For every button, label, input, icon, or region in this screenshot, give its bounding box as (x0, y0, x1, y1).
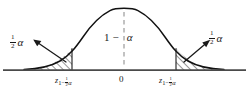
confidence-alpha-symbol: α (127, 31, 133, 43)
confidence-level-label: 1−α (104, 32, 133, 43)
left-z-subscript-alpha: α (68, 79, 71, 86)
left-critical-value-label: z1− 1 2 α (55, 77, 72, 87)
confidence-one: 1 (104, 31, 110, 43)
confidence-minus-sign: − (113, 31, 119, 43)
left-tail-arrow (33, 40, 66, 62)
right-tail-arrow (184, 40, 210, 62)
left-tail-probability-label: 1 2 α (10, 33, 23, 50)
distribution-plot-svg (0, 0, 249, 95)
right-tail-fraction: 1 2 (209, 30, 215, 46)
left-tail-fraction: 1 2 (10, 34, 16, 50)
right-tail-probability-label: 1 2 α (209, 29, 222, 46)
right-z-subscript-alpha: α (172, 79, 175, 86)
origin-tick-label: 0 (119, 75, 124, 84)
right-critical-value-label: z1− 1 2 α (159, 77, 176, 87)
left-tail-alpha-symbol: α (18, 36, 24, 48)
normal-distribution-figure: 1 2 α 1 2 α 1−α z1− 1 2 α 0 z1− 1 2 α (0, 0, 249, 95)
right-tail-alpha-symbol: α (217, 32, 223, 44)
